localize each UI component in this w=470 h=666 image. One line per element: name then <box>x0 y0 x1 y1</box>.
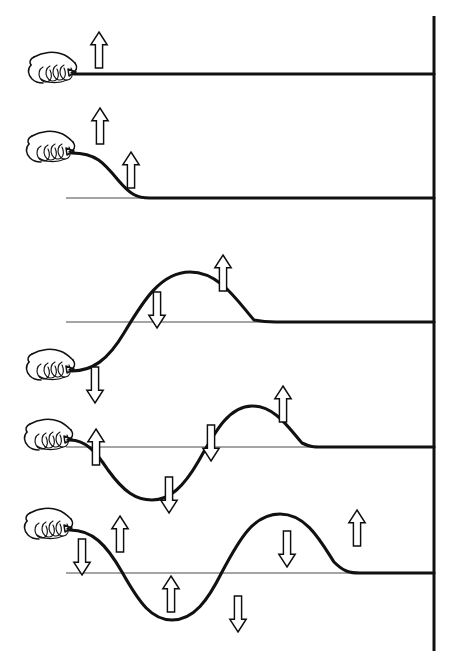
arrow-up-f5-a3 <box>163 576 179 612</box>
hand-frame-4 <box>24 419 72 450</box>
rope-curve-frame-5 <box>70 514 434 620</box>
hand-frame-1 <box>28 52 76 83</box>
arrow-up-f2-a2 <box>123 152 139 188</box>
hand-frame-5 <box>24 508 72 539</box>
wave-diagram-canvas <box>0 0 470 666</box>
arrow-down-f5-a1 <box>74 539 90 575</box>
hand-frame-2 <box>26 131 74 162</box>
arrow-down-f3-a3 <box>87 367 103 403</box>
hand-frame-3 <box>26 349 74 380</box>
arrow-down-f3-a2 <box>149 292 165 328</box>
arrow-down-f5-a5 <box>279 531 295 567</box>
frame-4 <box>24 386 434 513</box>
rope-curve-frame-4 <box>70 406 434 500</box>
arrow-up-f5-a6 <box>349 510 365 546</box>
arrow-up-f5-a2 <box>112 516 128 552</box>
arrow-up-f3-a1 <box>215 255 231 291</box>
arrow-up-f1-a1 <box>91 32 107 68</box>
arrow-down-f5-a4 <box>230 596 246 632</box>
frame-1 <box>28 32 434 83</box>
frame-3 <box>26 255 434 403</box>
arrow-up-f2-a1 <box>92 108 108 144</box>
frame-5 <box>24 508 434 632</box>
arrow-down-f4-a2 <box>161 477 177 513</box>
wave-figure: Transverse wave pulse travelling along a… <box>0 0 470 666</box>
frame-2 <box>26 108 434 198</box>
